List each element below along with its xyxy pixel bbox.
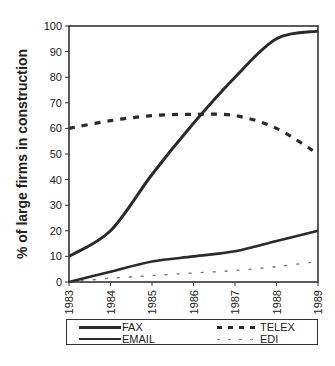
legend-swatch-edi bbox=[217, 339, 259, 340]
line-chart: % of large firms in construction 0102030… bbox=[0, 0, 335, 366]
legend-item-email: EMAIL bbox=[79, 333, 155, 345]
legend-label-fax: FAX bbox=[122, 321, 143, 333]
y-tick-label: 30 bbox=[50, 199, 62, 211]
y-tick-label: 60 bbox=[50, 122, 62, 134]
legend-label-edi: EDI bbox=[260, 333, 278, 345]
y-tick-label: 80 bbox=[50, 71, 62, 83]
legend: FAX TELEX EMAIL EDI bbox=[66, 319, 318, 345]
y-tick-label: 0 bbox=[56, 276, 62, 288]
legend-swatch-telex bbox=[217, 326, 259, 329]
legend-item-edi: EDI bbox=[217, 333, 278, 345]
x-axis-ticks: 1983198419851986198719881989 bbox=[63, 282, 324, 314]
plot-area-frame bbox=[69, 26, 318, 282]
y-axis-ticks: 0102030405060708090100 bbox=[44, 20, 69, 288]
series-line-telex bbox=[69, 114, 318, 154]
x-tick-label: 1988 bbox=[271, 290, 283, 314]
y-axis-title: % of large firms in construction bbox=[14, 49, 30, 259]
x-tick-label: 1987 bbox=[229, 290, 241, 314]
x-tick-label: 1984 bbox=[105, 290, 117, 314]
series-line-fax bbox=[69, 31, 318, 256]
y-axis-label: % of large firms in construction bbox=[14, 49, 30, 259]
x-tick-label: 1983 bbox=[63, 290, 75, 314]
y-tick-label: 10 bbox=[50, 250, 62, 262]
legend-item-fax: FAX bbox=[79, 321, 143, 333]
y-tick-label: 90 bbox=[50, 46, 62, 58]
x-tick-label: 1989 bbox=[312, 290, 324, 314]
series-lines bbox=[69, 31, 318, 282]
legend-swatch-email bbox=[79, 338, 121, 340]
y-tick-label: 40 bbox=[50, 174, 62, 186]
legend-label-telex: TELEX bbox=[260, 321, 295, 333]
x-tick-label: 1985 bbox=[146, 290, 158, 314]
series-line-email bbox=[69, 231, 318, 282]
x-tick-label: 1986 bbox=[188, 290, 200, 314]
legend-label-email: EMAIL bbox=[122, 333, 155, 345]
legend-item-telex: TELEX bbox=[217, 321, 295, 333]
y-tick-label: 100 bbox=[44, 20, 62, 32]
y-tick-label: 70 bbox=[50, 97, 62, 109]
y-tick-label: 20 bbox=[50, 225, 62, 237]
legend-swatch-fax bbox=[79, 326, 121, 329]
y-tick-label: 50 bbox=[50, 148, 62, 160]
